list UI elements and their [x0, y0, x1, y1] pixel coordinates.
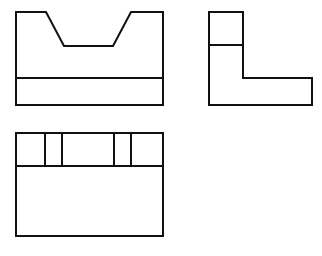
drawing-surface: [0, 0, 322, 256]
top-view-face: [16, 133, 163, 236]
top-view: [16, 133, 163, 236]
technical-drawing-canvas: [0, 0, 322, 256]
